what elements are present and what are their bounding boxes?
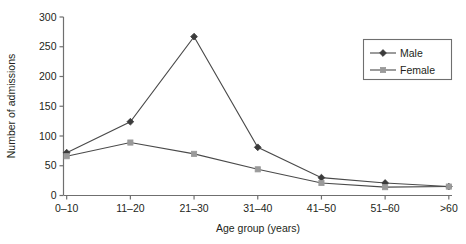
y-tick-label: 150 bbox=[39, 100, 57, 112]
x-tick-label: >60 bbox=[440, 202, 458, 214]
data-point bbox=[191, 151, 196, 156]
x-tick-label: 51–60 bbox=[371, 202, 400, 214]
legend[interactable]: MaleFemale bbox=[364, 40, 452, 80]
data-point bbox=[254, 144, 261, 151]
legend-swatch-marker bbox=[380, 67, 385, 72]
line-chart: 050100150200250300 0–1011–2021–3031–4041… bbox=[0, 0, 466, 244]
y-tick-label: 0 bbox=[51, 189, 57, 201]
x-tick-label: 21–30 bbox=[179, 202, 208, 214]
x-axis-title: Age group (years) bbox=[216, 222, 300, 234]
y-tick-label: 200 bbox=[39, 70, 57, 82]
x-tick-label: 41–50 bbox=[307, 202, 336, 214]
data-point bbox=[64, 154, 69, 159]
legend-item-label: Female bbox=[400, 64, 435, 76]
x-tick-label: 11–20 bbox=[116, 202, 145, 214]
y-tick-label: 300 bbox=[39, 11, 57, 23]
data-point bbox=[255, 167, 260, 172]
legend-item-label: Male bbox=[400, 47, 423, 59]
y-axis-title: Number of admissions bbox=[5, 54, 17, 158]
x-axis-tick-labels: 0–1011–2021–3031–4041–5051–60>60 bbox=[55, 202, 458, 214]
data-point bbox=[383, 185, 388, 190]
data-point bbox=[128, 140, 133, 145]
data-point bbox=[319, 180, 324, 185]
y-tick-label: 250 bbox=[39, 40, 57, 52]
chart-container: 050100150200250300 0–1011–2021–3031–4041… bbox=[0, 0, 466, 244]
y-tick-label: 50 bbox=[45, 159, 57, 171]
y-tick-label: 100 bbox=[39, 130, 57, 142]
x-tick-label: 31–40 bbox=[243, 202, 272, 214]
data-point bbox=[446, 184, 451, 189]
y-axis-tick-labels: 050100150200250300 bbox=[39, 11, 57, 202]
x-tick-label: 0–10 bbox=[55, 202, 79, 214]
x-axis-ticks bbox=[67, 196, 449, 200]
